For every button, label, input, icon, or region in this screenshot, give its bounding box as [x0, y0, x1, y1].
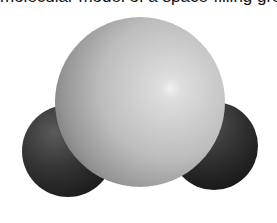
central-atom-sphere — [55, 17, 225, 187]
molecule-model-figure — [0, 0, 277, 223]
